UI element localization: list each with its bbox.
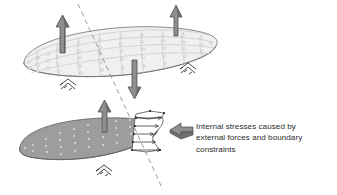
annotation-caption: Internal stresses caused by external for…	[196, 121, 336, 155]
annotation-line-1: Internal stresses caused by	[196, 121, 336, 132]
engineering-diagram	[0, 0, 337, 195]
annotation-line-2: external forces and boundary	[196, 132, 336, 143]
annotation-line-3: constraints	[196, 144, 336, 155]
